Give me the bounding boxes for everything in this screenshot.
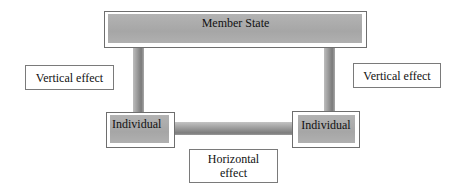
vertical-effect-left-text: Vertical effect	[36, 71, 103, 85]
individual-node-right: Individual	[292, 111, 360, 148]
vertical-effect-left-annotation: Vertical effect	[25, 65, 114, 90]
vertical-effect-right-text: Vertical effect	[363, 69, 430, 83]
individual-right-label: Individual	[293, 118, 359, 132]
individual-node-left: Individual	[106, 112, 175, 148]
vertical-connector-left	[133, 47, 144, 113]
horizontal-effect-annotation: Horizontal effect	[189, 149, 278, 183]
member-state-node: Member State	[104, 11, 367, 48]
vertical-effect-right-annotation: Vertical effect	[353, 63, 441, 88]
vertical-connector-right	[324, 47, 335, 112]
horizontal-effect-text-line1: Horizontal	[208, 152, 259, 166]
individual-left-label: Individual	[112, 117, 161, 131]
horizontal-connector	[174, 122, 293, 135]
member-state-label: Member State	[105, 16, 366, 30]
horizontal-effect-text-line2: effect	[220, 166, 247, 180]
